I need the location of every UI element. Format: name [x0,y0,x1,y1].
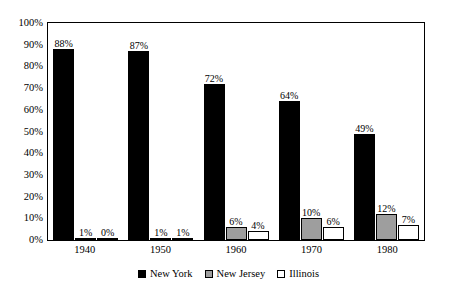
bar-group: 87%1%1% [123,23,198,240]
bar-slot: 12% [376,23,397,240]
bar-slot: 1% [150,23,171,240]
bar-slot: 1% [75,23,96,240]
bar-value-label: 10% [302,208,320,218]
bar-chart: 0%10%20%30%40%50%60%70%80%90%100% 88%1%0… [0,0,457,284]
legend-label: New York [150,269,193,280]
bar-value-label: 49% [355,124,373,134]
bar-value-label: 6% [229,217,242,227]
y-axis-tick-label: 60% [0,105,43,116]
x-axis-tick-label: 1940 [47,243,123,257]
y-axis: 0%10%20%30%40%50%60%70%80%90%100% [0,22,43,241]
bar-slot: 87% [128,23,149,240]
bar-slot: 7% [398,23,419,240]
filled-black-square-icon [138,270,146,278]
y-axis-tick-label: 70% [0,83,43,94]
bar-group: 49%12%7% [349,23,424,240]
x-axis: 19401950196019701980 [47,243,425,257]
legend-label: Illinois [289,269,319,280]
bar-new-york-1960[interactable]: 72% [204,84,225,240]
bar-new-york-1970[interactable]: 64% [279,101,300,240]
y-axis-tick-label: 80% [0,61,43,72]
bar-group: 88%1%0% [48,23,123,240]
bar-slot: 88% [53,23,74,240]
y-axis-tick-label: 90% [0,39,43,50]
y-axis-tick-label: 30% [0,170,43,181]
bar-illinois-1950[interactable]: 1% [172,238,193,240]
x-axis-tick-label: 1970 [274,243,350,257]
legend-entry-new-jersey[interactable]: New Jersey [205,269,266,280]
y-axis-tick-label: 50% [0,126,43,137]
bar-slot: 64% [279,23,300,240]
bar-group: 72%6%4% [198,23,273,240]
x-axis-tick-label: 1950 [123,243,199,257]
bar-new-york-1950[interactable]: 87% [128,51,149,240]
bar-value-label: 1% [176,228,189,238]
bar-slot: 0% [97,23,118,240]
bar-new-jersey-1950[interactable]: 1% [150,238,171,240]
bar-slot: 6% [323,23,344,240]
y-axis-tick-label: 10% [0,213,43,224]
chart-legend: New YorkNew JerseyIllinois [0,266,457,282]
bar-illinois-1940[interactable]: 0% [97,238,118,240]
y-axis-tick-label: 0% [0,235,43,246]
bar-value-label: 0% [101,228,114,238]
bar-new-jersey-1970[interactable]: 10% [301,218,322,240]
bar-slot: 6% [226,23,247,240]
bar-value-label: 1% [79,228,92,238]
bar-value-label: 7% [402,215,415,225]
filled-gray-square-icon [205,270,213,278]
x-axis-tick-label: 1980 [349,243,425,257]
bar-new-york-1980[interactable]: 49% [354,134,375,240]
bar-new-jersey-1960[interactable]: 6% [226,227,247,240]
y-axis-tick-label: 20% [0,191,43,202]
bar-value-label: 12% [377,204,395,214]
bars-layer: 88%1%0%87%1%1%72%6%4%64%10%6%49%12%7% [48,23,424,240]
bar-illinois-1970[interactable]: 6% [323,227,344,240]
bar-group: 64%10%6% [274,23,349,240]
bar-slot: 72% [204,23,225,240]
outlined-white-square-icon [277,270,285,278]
bar-value-label: 4% [251,221,264,231]
bar-value-label: 64% [280,91,298,101]
bar-value-label: 6% [327,217,340,227]
bar-slot: 4% [248,23,269,240]
x-axis-tick-label: 1960 [198,243,274,257]
bar-value-label: 88% [54,39,72,49]
bar-slot: 1% [172,23,193,240]
bar-new-jersey-1940[interactable]: 1% [75,238,96,240]
bar-new-york-1940[interactable]: 88% [53,49,74,240]
bar-value-label: 72% [205,74,223,84]
legend-label: New Jersey [217,269,266,280]
bar-illinois-1980[interactable]: 7% [398,225,419,240]
y-axis-tick-label: 40% [0,148,43,159]
legend-entry-new-york[interactable]: New York [138,269,193,280]
bar-value-label: 1% [154,228,167,238]
bar-slot: 10% [301,23,322,240]
y-axis-tick-label: 100% [0,18,43,29]
bar-new-jersey-1980[interactable]: 12% [376,214,397,240]
legend-entry-illinois[interactable]: Illinois [277,269,319,280]
bar-value-label: 87% [130,41,148,51]
bar-slot: 49% [354,23,375,240]
bar-illinois-1960[interactable]: 4% [248,231,269,240]
